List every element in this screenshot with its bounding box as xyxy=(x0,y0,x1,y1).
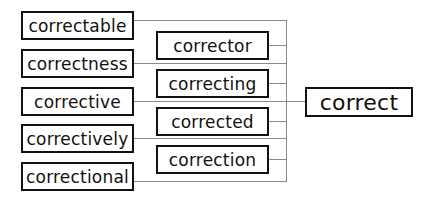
node-correcting: correcting xyxy=(156,69,269,98)
connector-corrector xyxy=(268,45,287,46)
connector-corrective xyxy=(133,101,287,102)
connector-correction xyxy=(268,159,287,160)
node-corrective: corrective xyxy=(21,87,134,116)
node-correctively: correctively xyxy=(21,124,134,153)
connector-correcting xyxy=(268,83,287,84)
node-correctable: correctable xyxy=(21,11,134,40)
connector-correctional xyxy=(133,181,287,182)
node-correctional: correctional xyxy=(21,162,134,191)
connector-correctable xyxy=(133,20,287,21)
node-corrected: corrected xyxy=(156,107,269,136)
node-root-correct: correct xyxy=(305,87,413,117)
node-correction: correction xyxy=(156,145,269,174)
node-corrector: corrector xyxy=(156,31,269,60)
node-correctness: correctness xyxy=(21,49,134,78)
connector-corrected xyxy=(268,121,287,122)
connector-correctness xyxy=(133,63,287,64)
connector-correctively xyxy=(133,138,287,139)
connector-root xyxy=(286,101,305,102)
